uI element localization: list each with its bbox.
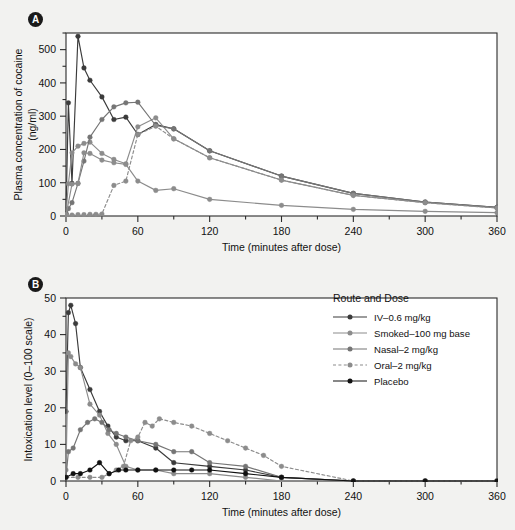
series-point (100, 158, 105, 163)
series-point (351, 207, 356, 212)
series-point (135, 435, 140, 440)
series-point (171, 468, 176, 473)
series-point (171, 420, 176, 425)
y-tick-label: 0 (50, 210, 56, 222)
x-tick-label: 300 (416, 225, 434, 237)
y-tick-label: 0 (50, 475, 56, 487)
legend-item-label: IV–0.6 mg/kg (374, 312, 431, 323)
series-point (124, 101, 129, 106)
series-point (189, 468, 194, 473)
series-point (70, 213, 75, 218)
series-point (82, 66, 87, 71)
series-point (153, 442, 158, 447)
series-point (100, 212, 105, 217)
series-point (88, 212, 93, 217)
legend-key-oral (333, 359, 367, 371)
series-point (171, 460, 176, 465)
x-tick-label: 60 (132, 225, 144, 237)
panel-a-plot: 0601201802403003600100200300400500 (0, 0, 515, 265)
series-point (114, 442, 119, 447)
series-point (135, 468, 140, 473)
series-point (143, 420, 148, 425)
series-point (64, 475, 69, 480)
series-point (112, 183, 117, 188)
series-point (88, 78, 93, 83)
x-tick-label: 240 (345, 225, 363, 237)
series-point (100, 420, 105, 425)
x-tick-label: 60 (132, 490, 144, 502)
series-point (243, 446, 248, 451)
x-tick-label: 120 (201, 490, 219, 502)
series-point (150, 424, 155, 429)
series-point (100, 475, 105, 480)
y-tick-label: 200 (38, 143, 56, 155)
series-point (64, 213, 69, 218)
series-point (124, 179, 129, 184)
series-point (279, 203, 284, 208)
x-tick-label: 360 (488, 225, 506, 237)
series-point (78, 471, 83, 476)
y-tick-label: 30 (44, 365, 56, 377)
legend-key-smoked (333, 327, 367, 339)
legend-item-label: Nasal–2 mg/kg (374, 344, 438, 355)
series-point (261, 453, 266, 458)
y-tick-label: 300 (38, 110, 56, 122)
series-point (153, 468, 158, 473)
series-point (112, 105, 117, 110)
legend-title: Route and Dose (333, 292, 470, 304)
legend-rows: IV–0.6 mg/kgSmoked–100 mg baseNasal–2 mg… (333, 309, 470, 389)
series-point (68, 354, 73, 359)
series-point (153, 116, 158, 121)
series-point (114, 431, 119, 436)
x-tick-label: 300 (416, 490, 434, 502)
x-tick-label: 180 (273, 225, 291, 237)
x-tick-label: 120 (201, 225, 219, 237)
panel-a: A 0601201802403003600100200300400500 Pla… (0, 0, 515, 265)
series-point (76, 181, 81, 186)
series-point (153, 124, 158, 129)
legend-item: IV–0.6 mg/kg (333, 309, 470, 325)
series-point (207, 468, 212, 473)
series-point (78, 427, 83, 432)
y-tick-label: 20 (44, 402, 56, 414)
panel-a-y-axis-title-line1: Plasma concentration of cocaine (12, 33, 25, 216)
legend-item: Nasal–2 mg/kg (333, 341, 470, 357)
legend-key-nasal (333, 343, 367, 355)
series-point (116, 468, 121, 473)
series-point (135, 132, 140, 137)
y-tick-label: 500 (38, 43, 56, 55)
panel-b-y-axis-title: Intoxication level (0–100 scale) (22, 298, 35, 481)
series-point (76, 144, 81, 149)
series-point (171, 126, 176, 131)
panel-b-x-axis-title: Time (minutes after dose) (66, 506, 497, 518)
series-point (70, 182, 75, 187)
series-point (88, 135, 93, 140)
series-point (135, 124, 140, 129)
series-point (135, 179, 140, 184)
y-tick-label: 50 (44, 292, 56, 304)
y-tick-label: 10 (44, 438, 56, 450)
series-point (66, 449, 71, 454)
series-point (135, 100, 140, 105)
series-point (92, 416, 97, 421)
series-point (243, 471, 248, 476)
series-point (171, 136, 176, 141)
series-point (100, 117, 105, 122)
series-point (124, 468, 129, 473)
series-point (82, 150, 87, 155)
series-point (112, 160, 117, 165)
series-point (124, 162, 129, 167)
series-point (82, 212, 87, 217)
series-point (88, 402, 93, 407)
legend: Route and Dose IV–0.6 mg/kgSmoked–100 mg… (333, 292, 470, 389)
x-tick-label: 360 (488, 490, 506, 502)
series-point (243, 464, 248, 469)
series-point (76, 34, 81, 39)
series-point (66, 310, 71, 315)
series-point (78, 365, 83, 370)
series-point (70, 200, 75, 205)
x-tick-label: 240 (345, 490, 363, 502)
series-point (88, 387, 93, 392)
series-point (71, 471, 76, 476)
series-point (73, 321, 78, 326)
